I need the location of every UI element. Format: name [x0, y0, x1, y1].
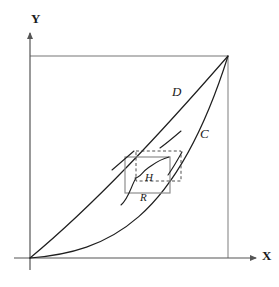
curve-d-label: D [172, 85, 181, 98]
curve-h-label: H [145, 172, 153, 183]
curve-d-inset-left [112, 151, 134, 170]
inset-rectangle-label: R [140, 192, 147, 203]
curve-c-label: C [200, 127, 209, 140]
figure-container: Y X D C H R [0, 0, 279, 287]
diagram-canvas [0, 0, 279, 287]
curve-c-inset-left [121, 178, 136, 205]
x-axis-label: X [262, 249, 271, 262]
y-axis-label: Y [31, 12, 40, 25]
curve-d-inset-right [160, 131, 181, 148]
